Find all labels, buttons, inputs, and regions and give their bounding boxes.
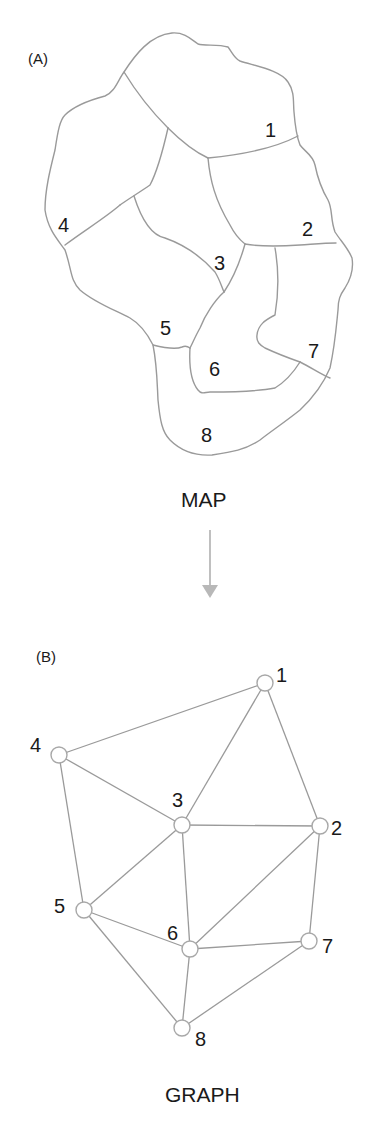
border-5-6 [190,292,224,348]
border-6-7 [257,248,300,362]
graph-nodes [51,675,328,1036]
border-3-inner [134,196,224,292]
edge-7-8 [182,941,309,1028]
border-5-8 [153,345,190,348]
region-label-4: 4 [58,214,69,236]
edge-4-5 [59,755,84,910]
map-panel [45,33,353,455]
graph-edges [59,683,320,1028]
border-4-5 [65,205,120,245]
node-8 [174,1020,190,1036]
node-6 [182,941,198,957]
node-label-3: 3 [172,789,183,811]
edge-1-4 [59,683,265,755]
node-label-2: 2 [331,817,342,839]
node-label-8: 8 [195,1028,206,1050]
diagram-canvas: 1 2 3 4 5 6 7 8 [0,0,385,1133]
edge-6-7 [190,941,309,949]
down-arrow-icon [202,530,218,598]
graph-caption: GRAPH [165,1083,240,1107]
node-label-4: 4 [30,734,41,756]
region-label-2: 2 [302,218,313,240]
region-label-1: 1 [265,119,276,141]
node-label-7: 7 [322,935,333,957]
node-5 [76,902,92,918]
map-caption: MAP [181,488,227,512]
edge-6-8 [182,949,190,1028]
node-label-1: 1 [276,664,287,686]
border-2-7 [245,243,336,246]
border-1-3 [168,128,208,158]
region-label-8: 8 [201,424,212,446]
edge-3-6 [182,825,190,949]
panel-a-tag: (A) [28,50,48,67]
region-label-6: 6 [209,358,220,380]
node-label-5: 5 [54,895,65,917]
region-label-7: 7 [308,340,319,362]
border-2-3 [208,158,245,244]
map-region-labels: 1 2 3 4 5 6 7 8 [58,119,319,446]
edge-2-7 [309,826,320,941]
node-2 [312,818,328,834]
node-3 [174,817,190,833]
border-1-2 [208,136,298,158]
panel-b-tag: (B) [36,648,56,665]
node-1 [257,675,273,691]
edge-3-2 [182,825,320,826]
region-label-3: 3 [214,252,225,274]
border-6-8 [190,348,300,393]
edge-4-3 [59,755,182,825]
border-7-8 [300,362,330,378]
region-label-5: 5 [160,317,171,339]
edge-2-6 [190,826,320,949]
node-7 [301,933,317,949]
edge-1-2 [265,683,320,826]
border-1-4 [124,72,168,128]
node-label-6: 6 [167,922,178,944]
border-3-6 [224,244,245,292]
node-4 [51,747,67,763]
border-4-3 [120,128,168,205]
edge-1-3 [182,683,265,825]
edge-3-5 [84,825,182,910]
